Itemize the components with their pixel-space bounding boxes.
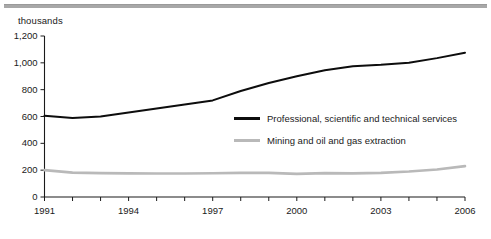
y-axis-tick-label: 200 <box>2 165 38 175</box>
x-axis-tick-label: 2000 <box>277 206 317 216</box>
series-line-0 <box>45 53 466 118</box>
chart-figure: thousands 02004006008001,0001,200 199119… <box>0 0 491 239</box>
x-axis-tick-label: 2003 <box>361 206 401 216</box>
y-axis-tick-label: 0 <box>2 192 38 202</box>
series-line-1 <box>45 166 466 174</box>
y-axis-tick-label: 1,200 <box>2 31 38 41</box>
legend-swatch-icon <box>234 117 260 120</box>
x-axis-tick-label: 1994 <box>109 206 149 216</box>
y-axis-tick-label: 400 <box>2 138 38 148</box>
legend-swatch-icon <box>234 139 260 142</box>
x-axis-tick-label: 2006 <box>445 206 485 216</box>
x-axis-tick-label: 1997 <box>193 206 233 216</box>
legend-item-0[interactable]: Professional, scientific and technical s… <box>234 113 457 124</box>
legend-label: Mining and oil and gas extraction <box>267 135 406 146</box>
y-axis-tick-label: 600 <box>2 112 38 122</box>
x-axis-tick-label: 1991 <box>25 206 65 216</box>
y-axis-tick-label: 800 <box>2 85 38 95</box>
plot-area: 02004006008001,0001,200 1991199419972000… <box>0 0 491 239</box>
legend-item-1[interactable]: Mining and oil and gas extraction <box>234 135 406 146</box>
legend-label: Professional, scientific and technical s… <box>267 113 457 124</box>
y-axis-tick-label: 1,000 <box>2 58 38 68</box>
